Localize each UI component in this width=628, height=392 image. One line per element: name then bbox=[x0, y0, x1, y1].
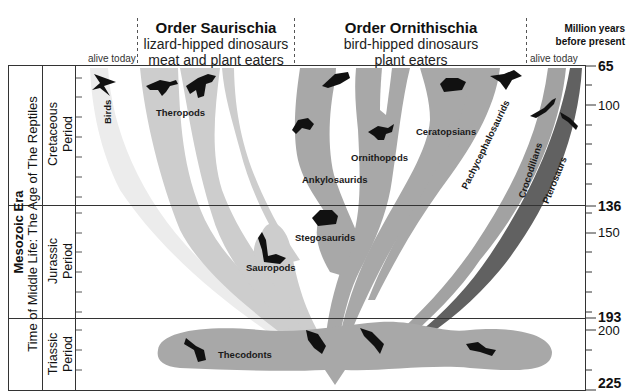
axis-label-150: 150 bbox=[598, 225, 620, 240]
right-axis-ticks bbox=[586, 66, 596, 390]
axis-title-line2: before present bbox=[540, 35, 625, 48]
axis-label-65: 65 bbox=[598, 58, 614, 74]
saurischia-subtitle2: meat and plant eaters bbox=[138, 52, 294, 69]
axis-label-100: 100 bbox=[598, 98, 620, 113]
period-jurassic-line2: Period bbox=[61, 208, 76, 314]
axis-title-line1: Million years bbox=[540, 22, 625, 35]
period-jurassic: Jurassic Period bbox=[46, 208, 76, 314]
axis-label-200: 200 bbox=[598, 323, 620, 338]
ornithischia-subtitle1: bird-hipped dinosaurs bbox=[295, 36, 527, 53]
saurischia-subtitle1: lizard-hipped dinosaurs bbox=[138, 36, 294, 53]
period-triassic-line1: Triassic bbox=[46, 320, 61, 388]
axis-title: Million years before present bbox=[540, 22, 625, 48]
period-cretaceous-line1: Cretaceous bbox=[46, 70, 61, 198]
label-ceratopsians: Ceratopsians bbox=[416, 126, 476, 137]
period-cretaceous-line2: Period bbox=[61, 70, 76, 198]
label-thecodonts: Thecodonts bbox=[218, 349, 272, 360]
left-ticks bbox=[76, 78, 82, 370]
ornithischia-subtitle2: plant eaters bbox=[295, 52, 527, 69]
saurischia-title: Order Saurischia bbox=[138, 19, 294, 36]
axis-label-225: 225 bbox=[598, 375, 621, 391]
alive-today-left: alive today bbox=[88, 53, 136, 64]
label-ankylosaurids: Ankylosaurids bbox=[302, 174, 367, 185]
label-ornithopods: Ornithopods bbox=[351, 152, 408, 163]
alive-today-right: alive today bbox=[530, 53, 578, 64]
label-stegosaurids: Stegosaurids bbox=[295, 232, 355, 243]
label-sauropods: Sauropods bbox=[246, 262, 296, 273]
period-cretaceous: Cretaceous Period bbox=[46, 70, 76, 198]
label-birds: Birds bbox=[102, 100, 113, 124]
axis-label-136: 136 bbox=[598, 198, 621, 214]
label-theropods: Theropods bbox=[156, 107, 205, 118]
era-subtitle: Time of Middle Life: The Age of The Rept… bbox=[25, 74, 40, 374]
period-triassic-line2: Period bbox=[61, 320, 76, 388]
ornithischia-title: Order Ornithischia bbox=[295, 19, 527, 36]
period-triassic: Triassic Period bbox=[46, 320, 76, 388]
period-jurassic-line1: Jurassic bbox=[46, 208, 61, 314]
era-title: Mesozoic Era bbox=[11, 142, 26, 322]
stegosaur-silhouette bbox=[312, 210, 338, 226]
